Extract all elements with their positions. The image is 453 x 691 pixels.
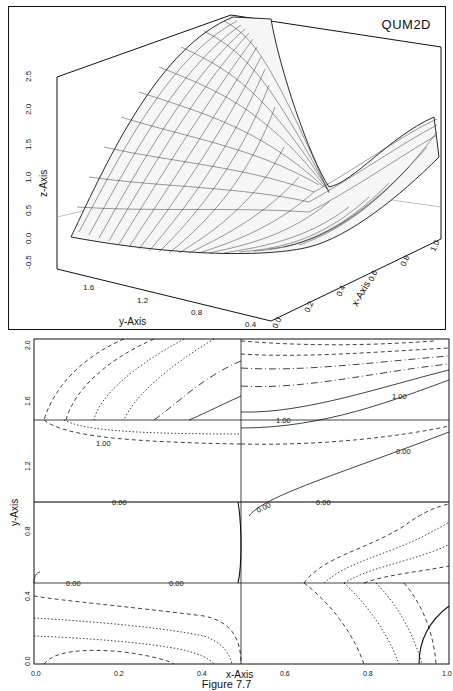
y-tick: 1.6 [24, 396, 31, 406]
y-tick: 1.6 [83, 283, 95, 292]
z-axis-ticks: -0.5 0.0 0.5 1.0 1.5 2.0 2.5 z-Axis [24, 70, 49, 269]
y-tick: 0.8 [24, 526, 31, 536]
contour-label: 1.00 [96, 439, 111, 448]
x-tick: 0.8 [363, 670, 373, 677]
y-tick: 0.8 [191, 308, 203, 317]
y-tick: 2.0 [24, 340, 31, 350]
y-axis-label: y-Axis [119, 316, 146, 327]
x-tick: 0.0 [31, 670, 41, 677]
y-axis-label: y-Axis [9, 499, 20, 526]
contour-label: 0.00 [396, 447, 411, 456]
y-tick: 0.4 [24, 591, 31, 601]
x-tick: 0.0 [271, 315, 284, 329]
z-tick: 0.5 [24, 204, 33, 216]
contour-label: 1.00 [276, 416, 291, 425]
z-tick: -0.5 [24, 255, 33, 269]
surface-plot-canvas: -0.5 0.0 0.5 1.0 1.5 2.0 2.5 z-Axis 1.6 … [9, 7, 445, 329]
x-axis-label: x-Axis [349, 279, 372, 308]
subdomain-lines [34, 339, 449, 664]
contour-plot-panel: 1.00 1.00 1.00 0.00 0.00 0.00 0.00 0.00 … [4, 336, 453, 691]
contour-label: 0.00 [112, 498, 127, 507]
x-tick: 0.6 [367, 268, 380, 282]
x-tick: 0.2 [303, 299, 316, 313]
x-axis-ticks: 0.0 0.2 0.4 0.6 0.8 1.0 x-Axis [271, 238, 442, 329]
surface-plot-title: QUM2D [382, 17, 431, 32]
contour-lines [34, 339, 449, 664]
contour-label: 0.00 [169, 579, 184, 588]
contour-plot-canvas: 1.00 1.00 1.00 0.00 0.00 0.00 0.00 0.00 … [4, 336, 453, 691]
x-tick: 0.6 [280, 670, 290, 677]
contour-label: 0.00 [316, 498, 331, 507]
contour-y-ticks: 0.0 0.4 0.8 1.2 1.6 2.0 y-Axis [9, 340, 31, 666]
y-tick: 0.0 [24, 656, 31, 666]
z-tick: 0.0 [24, 232, 33, 244]
contour-label: 0.00 [66, 579, 81, 588]
y-tick: 1.2 [137, 296, 149, 305]
y-tick: 1.2 [24, 461, 31, 471]
y-tick: 0.4 [245, 320, 257, 329]
contour-label: 1.00 [392, 392, 407, 401]
surface-plot-panel: QUM2D [8, 6, 446, 330]
z-tick: 2.5 [24, 70, 33, 82]
z-tick: 1.5 [24, 138, 33, 150]
z-axis-label: z-Axis [38, 170, 49, 197]
x-tick: 0.2 [114, 670, 124, 677]
contour-labels: 1.00 1.00 1.00 0.00 0.00 0.00 0.00 0.00 … [66, 392, 411, 588]
z-tick: 1.0 [24, 171, 33, 183]
figure-caption: Figure 7.7 [0, 678, 453, 690]
x-tick: 1.0 [429, 238, 442, 252]
contour-label: 0.00 [255, 500, 272, 514]
z-tick: 2.0 [24, 103, 33, 115]
x-tick: 0.4 [335, 283, 348, 297]
y-axis-ticks: 1.6 1.2 0.8 0.4 y-Axis [83, 283, 257, 329]
x-tick: 0.8 [399, 253, 412, 267]
x-tick: 0.4 [197, 670, 207, 677]
x-tick: 1.0 [442, 670, 452, 677]
